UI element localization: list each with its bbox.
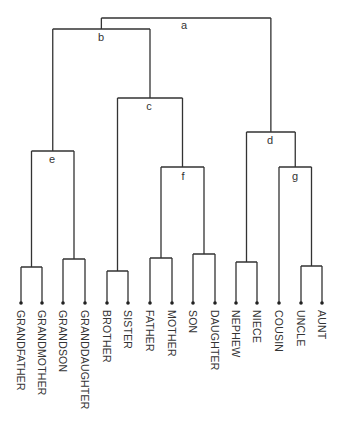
leaf-dot <box>299 301 303 305</box>
leaf-label: SON <box>187 310 199 333</box>
leaf-dot <box>126 301 130 305</box>
branch-a <box>101 18 271 132</box>
branch-GG2 <box>63 259 85 303</box>
leaf-dot <box>277 301 281 305</box>
leaf-label: BROTHER <box>101 310 113 363</box>
leaf-label: FATHER <box>144 310 156 352</box>
branch-GG1 <box>21 267 42 303</box>
cluster-label-g: g <box>292 170 298 182</box>
leaf-label: GRANDSON <box>57 310 69 372</box>
branch-d <box>247 132 296 262</box>
leaf-dot <box>213 301 217 305</box>
leaf-dot <box>191 301 195 305</box>
dendrogram: abcdefg GRANDFATHERGRANDMOTHERGRANDSONGR… <box>0 0 347 423</box>
leaf-dot <box>40 301 44 305</box>
leaf-dot <box>234 301 238 305</box>
branch-UA <box>301 266 322 303</box>
cluster-label-c: c <box>146 100 152 112</box>
cluster-label-d: d <box>267 134 273 146</box>
cluster-label-f: f <box>181 170 185 182</box>
leaf-dot <box>148 301 152 305</box>
cluster-label-b: b <box>98 31 104 43</box>
leaf-label: NIECE <box>251 310 263 343</box>
leaf-label: GRANDMOTHER <box>36 310 48 396</box>
leaf-label: UNCLE <box>295 310 307 347</box>
branch-c <box>118 98 183 271</box>
leaf-dot <box>61 301 65 305</box>
leaf-dot <box>19 301 23 305</box>
branch-g <box>279 167 312 303</box>
branch-SD <box>193 254 215 303</box>
leaf-label: NEPHEW <box>230 310 242 357</box>
leaf-label: COUSIN <box>273 310 285 352</box>
branch-FM <box>150 258 172 303</box>
leaf-label: SISTER <box>122 310 134 349</box>
leaf-label: GRANDFATHER <box>15 310 27 391</box>
leaf-label: DAUGHTER <box>209 310 221 371</box>
cluster-label-a: a <box>181 19 188 31</box>
leaf-label: MOTHER <box>166 310 178 357</box>
leaf-label: GRANDDAUGHTER <box>79 310 91 410</box>
branch-NN <box>236 262 257 303</box>
branch-BS <box>107 271 128 303</box>
branch-e <box>32 151 75 267</box>
leaf-dot <box>320 301 324 305</box>
cluster-label-e: e <box>49 153 55 165</box>
branch-b <box>53 29 150 151</box>
leaf-dot <box>83 301 87 305</box>
leaf-dot <box>255 301 259 305</box>
dendrogram-branches <box>21 18 322 303</box>
leaf-dot <box>105 301 109 305</box>
leaf-label: AUNT <box>316 310 328 340</box>
cluster-labels: abcdefg <box>49 19 298 182</box>
leaf-dot <box>170 301 174 305</box>
leaf-nodes: GRANDFATHERGRANDMOTHERGRANDSONGRANDDAUGH… <box>15 301 328 409</box>
